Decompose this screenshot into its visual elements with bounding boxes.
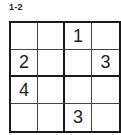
- cell-r4-c1[interactable]: [11, 104, 38, 131]
- cell-r1-c4[interactable]: [92, 23, 119, 50]
- cell-r3-c2[interactable]: [38, 77, 65, 104]
- puzzle-title: 1-2: [9, 2, 23, 12]
- cell-r1-c1[interactable]: [11, 23, 38, 50]
- cell-r1-c2[interactable]: [38, 23, 65, 50]
- cell-r2-c3[interactable]: [65, 50, 92, 77]
- cell-r4-c4[interactable]: [92, 104, 119, 131]
- cell-r3-c4[interactable]: [92, 77, 119, 104]
- cell-r2-c1[interactable]: 2: [11, 50, 38, 77]
- cell-r4-c2[interactable]: [38, 104, 65, 131]
- cell-r2-c2[interactable]: [38, 50, 65, 77]
- cell-r2-c4[interactable]: 3: [92, 50, 119, 77]
- cell-r3-c3[interactable]: [65, 77, 92, 104]
- cell-r4-c3[interactable]: 3: [65, 104, 92, 131]
- cell-r3-c1[interactable]: 4: [11, 77, 38, 104]
- sudoku-grid: 1 2 3 4 3: [9, 21, 121, 133]
- cell-r1-c3[interactable]: 1: [65, 23, 92, 50]
